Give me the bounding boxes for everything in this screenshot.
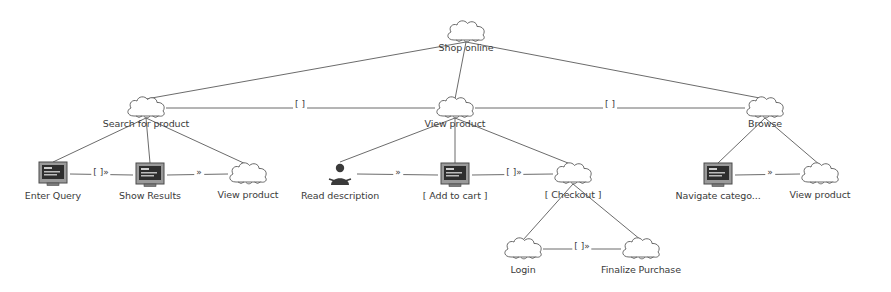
node-label: Browse (748, 118, 782, 129)
node-label: Search for product (103, 118, 189, 129)
cloud-icon (619, 236, 663, 262)
edge-shop_online-to-browse (466, 42, 765, 99)
edge-label: [ ] (603, 99, 617, 109)
edge-label: » (393, 167, 403, 177)
node-label: Navigate catego... (675, 190, 760, 201)
node-label: Login (510, 264, 535, 275)
screen-icon (703, 162, 733, 188)
node-label: [ Checkout ] (545, 189, 602, 200)
cloud-icon (226, 161, 270, 187)
edge-label: [ ]» (91, 167, 110, 177)
node-label: Read description (301, 190, 379, 201)
edge-label: [ ]» (504, 167, 523, 177)
node-label: Show Results (119, 190, 181, 201)
person-icon (325, 161, 355, 187)
node-label: View product (218, 189, 279, 200)
diagram-canvas: Shop onlineSearch for productView produc… (0, 0, 891, 292)
node-label: View product (425, 118, 486, 129)
edge-label: » (765, 167, 775, 177)
node-label: Shop online (439, 42, 494, 53)
screen-icon (135, 162, 165, 188)
edge-label: [ ] (293, 99, 307, 109)
cloud-icon (798, 161, 842, 187)
edge-shop_online-to-search_for_product (146, 42, 466, 99)
cloud-icon (501, 236, 545, 262)
node-label: View product (790, 189, 851, 200)
screen-icon (38, 161, 68, 187)
screen-icon (440, 162, 470, 188)
cloud-icon (551, 161, 595, 187)
edge-label: » (194, 167, 204, 177)
node-label: Finalize Purchase (601, 264, 681, 275)
node-label: [ Add to cart ] (423, 190, 488, 201)
edge-label: [ ]» (572, 241, 591, 251)
node-label: Enter Query (25, 190, 81, 201)
